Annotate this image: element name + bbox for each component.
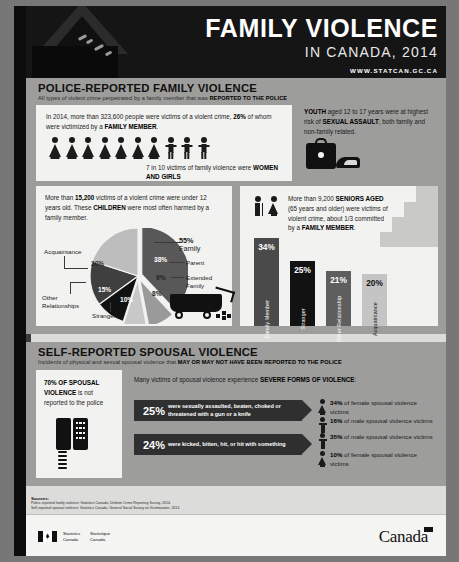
telephone-icon	[56, 418, 104, 462]
bar-value: 21%	[326, 275, 351, 285]
severe-form-stat: 34% of female spousal violence victims	[330, 399, 434, 416]
children-count: 15,200	[75, 194, 94, 201]
section1-sub-plain: All types of violent crime perpetrated b…	[38, 95, 209, 101]
intro-family-member: FAMILY MEMBER	[104, 123, 156, 130]
severe-form-callout: 25%were sexually assaulted, beaten, chok…	[134, 400, 302, 421]
severe-form-stat-text: of female spousal violence victims	[330, 451, 417, 467]
section1-title: POLICE-REPORTED FAMILY VIOLENCE	[26, 78, 446, 94]
children-text: More than 15,200 victims of a violent cr…	[45, 193, 223, 222]
section2-sub-plain: Incidents of physical and sexual spousal…	[38, 359, 178, 365]
severe-form-stat-percent: 10%	[330, 451, 342, 458]
suitcase-icon	[306, 143, 336, 169]
female-figure-icon	[81, 137, 95, 159]
severe-form-stat-percent: 34%	[330, 399, 342, 406]
seniors-t1: More than 9,200	[288, 195, 336, 202]
intro-text: In 2014, more than 323,600 people were v…	[46, 112, 278, 132]
female-figure-icon	[147, 137, 161, 159]
male-figure-icon	[164, 137, 178, 159]
male-figure-icon	[318, 433, 327, 449]
bar-other-relationship: 21%Other Relationship	[326, 271, 351, 326]
severe-form-stat-text: of female spousal violence victims	[330, 399, 417, 415]
severe-form-stat: 35% of male spousal violence victims	[330, 433, 434, 442]
left-spine	[14, 6, 26, 556]
card-intro-stats: In 2014, more than 323,600 people were v…	[36, 105, 292, 181]
canada-flag-icon	[38, 531, 57, 542]
sources-block: Sources: Police-reported family violence…	[31, 496, 281, 512]
infographic-poster: FAMILY VIOLENCE IN CANADA, 2014 WWW.STAT…	[0, 0, 459, 562]
card-youth: YOUTH aged 12 to 17 years were at highes…	[300, 105, 438, 181]
pictogram-caption-plain: 7 in 10 victims of family violence were	[146, 164, 253, 171]
severe-form-percent: 24%	[134, 439, 168, 451]
severe-intro-plain: Many victims of spousal violence experie…	[134, 376, 260, 383]
pie-value-sibling: 8%	[152, 290, 162, 297]
bar-acquaintance: 20%Acquaintance	[362, 274, 387, 326]
section1-sub-bold: REPORTED TO THE POLICE	[209, 95, 287, 101]
female-figure-icon	[48, 137, 62, 159]
bar-category-label: Family Member	[264, 300, 270, 338]
bar-family-member: 34%Family Member	[254, 238, 279, 326]
bar-category-label: Acquaintance	[372, 302, 378, 336]
page-subtitle: IN CANADA, 2014	[205, 44, 438, 60]
male-figure-icon	[197, 137, 211, 159]
intro-t1: In 2014, more than 323,600 people were v…	[46, 113, 233, 120]
severe-form-stat-text: of male spousal violence victims	[342, 417, 432, 424]
pie-label-parent: Parent	[186, 259, 204, 267]
severe-form-stat-percent: 16%	[330, 417, 342, 424]
children-t1: More than	[45, 194, 75, 201]
poster-header: FAMILY VIOLENCE IN CANADA, 2014 WWW.STAT…	[26, 6, 446, 78]
severe-intro-end: :	[354, 376, 356, 383]
section2-subtitle: Incidents of physical and sexual spousal…	[26, 358, 446, 368]
severe-form-stat-text: of male spousal violence victims	[342, 433, 432, 440]
wordmark-flag-icon	[424, 527, 433, 532]
dept-name-en: Statistics Canada	[63, 531, 80, 543]
pie-value-parent: 38%	[154, 256, 167, 263]
bar-value: 25%	[290, 265, 315, 275]
bar-value: 34%	[254, 242, 279, 252]
page-title: FAMILY VIOLENCE	[205, 16, 438, 41]
pie-label-stranger: Stranger	[92, 312, 116, 320]
severe-form-description: were sexually assaulted, beaten, choked …	[168, 403, 286, 419]
female-figure-icon	[131, 137, 145, 159]
house-body-shape	[32, 46, 118, 78]
senior-male-icon	[252, 196, 263, 216]
pie-family-label: Family	[179, 244, 231, 254]
bar-chart: 34%Family Member25%Stranger21%Other Rela…	[254, 222, 387, 326]
pie-leader-line	[154, 242, 180, 243]
female-figure-icon	[65, 137, 79, 159]
children-label: CHILDREN	[93, 204, 126, 211]
pie-leader-line	[70, 282, 86, 283]
male-figure-icon	[318, 417, 327, 433]
intro-pct: 26%	[233, 113, 246, 120]
severe-form-callout: 24%were kicked, bitten, hit, or hit with…	[134, 434, 302, 455]
pie-leader-line	[64, 268, 88, 269]
shoe-icon	[336, 157, 360, 168]
pie-leader-line	[110, 302, 111, 312]
senior-female-icon	[268, 196, 279, 216]
bar-stranger: 25%Stranger	[290, 261, 315, 326]
poster-footer: Statistics Canada Statistique Canada Can…	[26, 514, 446, 556]
severe-form-stat: 16% of male spousal violence victims	[330, 417, 434, 426]
pie-leader-line	[64, 256, 65, 268]
pie-leader-line	[70, 282, 71, 294]
intro-t3: .	[157, 123, 159, 130]
pie-value-stranger: 10%	[120, 296, 133, 303]
sources-line-2: Self-reported spousal violence: Statisti…	[31, 506, 281, 511]
pie-leader-line	[171, 277, 184, 278]
dept-name-fr: Statistique Canada	[90, 531, 110, 543]
section1-subtitle: All types of violent crime perpetrated b…	[26, 94, 446, 104]
severe-intro-bold: SEVERE FORMS OF VIOLENCE	[260, 376, 354, 383]
pictogram-caption: 7 in 10 victims of family violence were …	[146, 163, 286, 182]
card-seniors-bars: More than 9,200 SENIORS AGED (65 years a…	[240, 186, 438, 326]
pie-value-extended-family: 9%	[156, 274, 166, 281]
female-figure-icon	[318, 451, 327, 467]
youth-sexual-assault: SEXUAL ASSAULT	[323, 118, 379, 125]
severe-form-stat-percent: 35%	[330, 433, 342, 440]
female-figure-icon	[318, 399, 327, 415]
pie-value-acquaintance: 20%	[91, 260, 104, 267]
bar-category-label: Stranger	[300, 308, 306, 330]
title-block: FAMILY VIOLENCE IN CANADA, 2014 WWW.STAT…	[205, 16, 438, 74]
card-children-pie: More than 15,200 victims of a violent cr…	[36, 186, 232, 326]
section2-title: SELF-REPORTED SPOUSAL VIOLENCE	[26, 342, 446, 358]
severe-form-description: were kicked, bitten, hit, or hit with so…	[168, 441, 286, 449]
card-unreported: 70% OF SPOUSAL VIOLENCE is not reported …	[36, 370, 122, 478]
